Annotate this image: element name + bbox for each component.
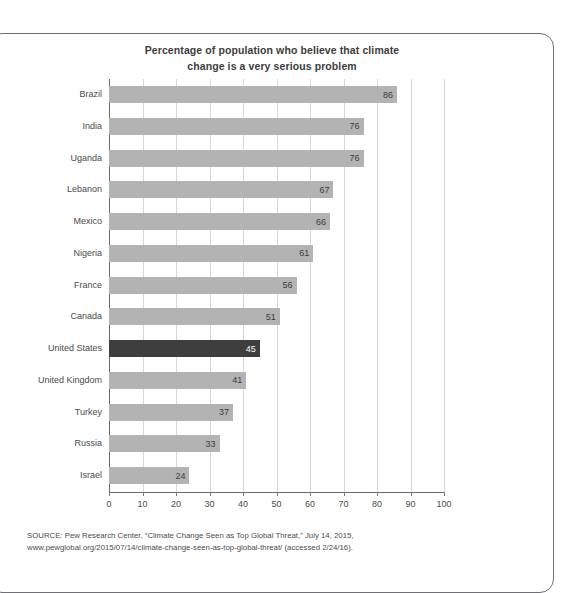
bar: 41 [109,372,246,389]
chart-title-line-1: Percentage of population who believe tha… [39,42,505,58]
bar-row: Mexico66 [109,206,444,238]
bar-row: France56 [109,270,444,302]
chart-title: Percentage of population who believe tha… [39,42,505,74]
bar-chart-plot-area: Brazil86India76Uganda76Lebanon67Mexico66… [109,79,444,492]
plot-wrap: Brazil86India76Uganda76Lebanon67Mexico66… [109,79,444,492]
bar-row: Nigeria61 [109,238,444,270]
bar-value-label: 56 [283,281,293,290]
source-note-line-1: SOURCE: Pew Research Center, “Climate Ch… [27,530,497,542]
bar-row: Canada51 [109,301,444,333]
bar-value-label: 76 [350,122,360,131]
x-tick-0 [109,492,110,496]
bar: 76 [109,150,364,167]
bar: 66 [109,213,330,230]
category-label: Nigeria [73,245,102,262]
category-label: Canada [70,308,102,325]
x-tick-90 [411,492,412,496]
bar: 86 [109,86,397,103]
bar-value-label: 41 [232,376,242,385]
bar-value-label: 33 [206,439,216,448]
category-label: Uganda [70,150,102,167]
gridline-100 [444,79,445,492]
bar-row: United Kingdom41 [109,365,444,397]
category-label: United States [48,340,102,357]
x-tick-label-50: 50 [271,499,281,509]
bar-highlight: 45 [109,340,260,357]
x-tick-40 [243,492,244,496]
chart-title-line-2: change is a very serious problem [39,58,505,74]
bar-row: Lebanon67 [109,174,444,206]
bar-value-label: 45 [246,344,256,353]
category-label: Turkey [75,404,102,421]
bar: 33 [109,435,220,452]
bar: 24 [109,467,189,484]
bar: 67 [109,181,333,198]
x-tick-label-70: 70 [338,499,348,509]
x-tick-20 [176,492,177,496]
x-tick-label-20: 20 [171,499,181,509]
bar: 76 [109,118,364,135]
bar-row: Turkey37 [109,397,444,429]
x-tick-label-80: 80 [372,499,382,509]
bar: 51 [109,308,280,325]
x-tick-label-40: 40 [238,499,248,509]
x-tick-label-90: 90 [405,499,415,509]
x-tick-10 [143,492,144,496]
x-tick-70 [344,492,345,496]
category-label: Israel [80,467,102,484]
bar-value-label: 76 [350,154,360,163]
category-label: Russia [74,435,102,452]
bar-value-label: 61 [299,249,309,258]
category-label: United Kingdom [38,372,102,389]
bar-row: Brazil86 [109,79,444,111]
source-note-line-2: www.pewglobal.org/2015/07/14/climate-cha… [27,542,497,554]
category-label: France [74,277,102,294]
category-label: India [82,118,102,135]
bar-value-label: 66 [316,217,326,226]
x-tick-50 [277,492,278,496]
bar: 56 [109,277,297,294]
category-label: Brazil [79,86,102,103]
category-label: Mexico [73,213,102,230]
bar-value-label: 67 [319,185,329,194]
x-tick-label-60: 60 [305,499,315,509]
bar-value-label: 86 [383,90,393,99]
bar-row: Israel24 [109,460,444,492]
category-label: Lebanon [67,181,102,198]
bar-row: India76 [109,111,444,143]
x-tick-100 [444,492,445,496]
figure-card: Percentage of population who believe tha… [0,33,554,593]
x-tick-label-0: 0 [106,499,111,509]
bar: 61 [109,245,313,262]
bar-value-label: 24 [175,471,185,480]
x-tick-60 [310,492,311,496]
bar-row: Russia33 [109,428,444,460]
x-tick-label-10: 10 [137,499,147,509]
bar: 37 [109,404,233,421]
source-note: SOURCE: Pew Research Center, “Climate Ch… [27,530,497,554]
bar-value-label: 51 [266,312,276,321]
bar-row: United States45 [109,333,444,365]
x-tick-label-100: 100 [436,499,451,509]
bar-value-label: 37 [219,408,229,417]
bar-row: Uganda76 [109,143,444,175]
x-tick-30 [210,492,211,496]
x-tick-label-30: 30 [204,499,214,509]
x-tick-80 [377,492,378,496]
